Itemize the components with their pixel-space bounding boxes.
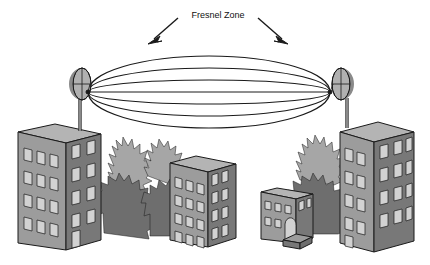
small-arched-building: [261, 188, 313, 249]
left-building-door: [72, 230, 80, 248]
center-building: [170, 156, 236, 248]
center-building-door: [197, 236, 204, 248]
fresnel-zone-label: Fresnel Zone: [191, 10, 244, 20]
left-building-side: [66, 134, 101, 250]
right-feed-horn: [328, 90, 332, 94]
left-feed-horn: [86, 90, 90, 94]
right-building-door: [345, 235, 353, 248]
left-tall-building: [18, 124, 101, 250]
fresnel-zone-diagram: Fresnel Zone: [0, 0, 430, 265]
right-tall-building: [340, 122, 414, 252]
diagram-canvas: Fresnel Zone: [0, 0, 430, 265]
